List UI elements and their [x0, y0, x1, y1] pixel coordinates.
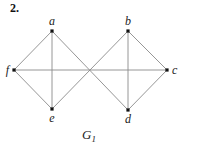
vertex-label-b: b [125, 14, 131, 28]
vertex-f [12, 68, 15, 71]
vertex-label-f: f [6, 63, 11, 77]
vertex-a [50, 29, 53, 32]
graph-name-label: G1 [82, 127, 96, 143]
edge-a-f [14, 31, 52, 70]
problem-number: 2. [10, 1, 19, 15]
vertex-label-d: d [125, 112, 132, 126]
edge-c-d [128, 70, 167, 110]
vertex-b [126, 29, 129, 32]
vertex-c [165, 68, 168, 71]
vertex-label-a: a [49, 14, 55, 28]
graph-diagram: 2. abcdef G1 [0, 0, 220, 143]
edge-f-e [14, 70, 52, 109]
vertex-label-c: c [172, 63, 178, 77]
graph-subscript: 1 [91, 134, 96, 143]
vertex-label-e: e [49, 111, 55, 125]
edge-b-c [128, 31, 167, 70]
edges [14, 31, 167, 110]
